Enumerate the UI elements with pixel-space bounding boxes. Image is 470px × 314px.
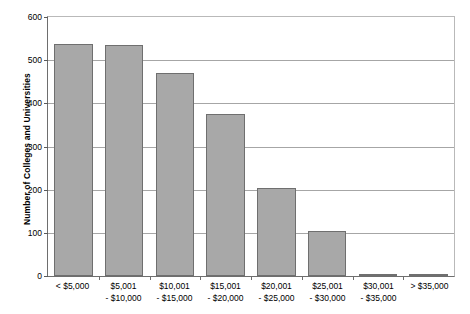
y-tick-label: 600 [28, 13, 42, 22]
bar-slot [200, 17, 251, 276]
x-axis-labels: < $5,000$5,001- $10,000$10,001- $15,000$… [47, 281, 455, 304]
x-axis-label-line2: - $20,000 [200, 293, 251, 305]
bar-slot [48, 17, 99, 276]
y-tick-label: 100 [28, 229, 42, 238]
x-axis-label: $15,001- $20,000 [200, 281, 251, 304]
bar-slot [150, 17, 201, 276]
x-tick-mark [403, 276, 404, 280]
x-axis-label-line1: $20,001 [261, 281, 292, 291]
x-tick-mark [251, 276, 252, 280]
x-tick-mark [353, 276, 354, 280]
bar[interactable] [54, 44, 93, 276]
x-axis-label: > $35,000 [404, 281, 455, 304]
x-axis-label-line2: - $30,000 [302, 293, 353, 305]
x-tick-mark [99, 276, 100, 280]
x-axis-label-line2: - $10,000 [98, 293, 149, 305]
bar[interactable] [409, 274, 448, 276]
x-tick-mark [200, 276, 201, 280]
x-axis-label-line1: $30,001 [363, 281, 394, 291]
x-axis-label: $20,001- $25,000 [251, 281, 302, 304]
plot-area: 6005004003002001000 [47, 16, 455, 277]
y-tick-label: 300 [28, 142, 42, 151]
bar[interactable] [206, 114, 245, 276]
x-axis-label-line2: - $35,000 [353, 293, 404, 305]
y-tick-label: 200 [28, 185, 42, 194]
y-tick-label: 500 [28, 56, 42, 65]
x-axis-label: < $5,000 [47, 281, 98, 304]
x-axis-label-line1: $15,001 [210, 281, 241, 291]
x-axis-label: $10,001- $15,000 [149, 281, 200, 304]
bars-layer [48, 17, 454, 276]
bar-chart: Number of Colleges and Universities 6005… [0, 0, 470, 314]
bar[interactable] [359, 274, 398, 276]
y-tick-mark [44, 276, 48, 277]
x-axis-label: $30,001- $35,000 [353, 281, 404, 304]
bar[interactable] [308, 231, 347, 276]
x-axis-label-line2: - $15,000 [149, 293, 200, 305]
y-tick-label: 0 [37, 272, 42, 281]
bar-slot [99, 17, 150, 276]
bar-slot [403, 17, 454, 276]
x-axis-label-line1: $5,001 [111, 281, 137, 291]
x-axis-label-line2: - $25,000 [251, 293, 302, 305]
x-axis-label-line1: > $35,000 [410, 281, 448, 291]
y-tick-label: 400 [28, 99, 42, 108]
x-tick-mark [302, 276, 303, 280]
x-axis-label: $5,001- $10,000 [98, 281, 149, 304]
bar-slot [302, 17, 353, 276]
bar[interactable] [156, 73, 195, 276]
bar[interactable] [105, 45, 144, 276]
x-tick-mark [150, 276, 151, 280]
x-axis-label-line1: $10,001 [159, 281, 190, 291]
bar-slot [251, 17, 302, 276]
x-axis-label-line1: < $5,000 [56, 281, 89, 291]
x-axis-label-line1: $25,001 [312, 281, 343, 291]
x-axis-label: $25,001- $30,000 [302, 281, 353, 304]
bar-slot [353, 17, 404, 276]
bar[interactable] [257, 188, 296, 276]
